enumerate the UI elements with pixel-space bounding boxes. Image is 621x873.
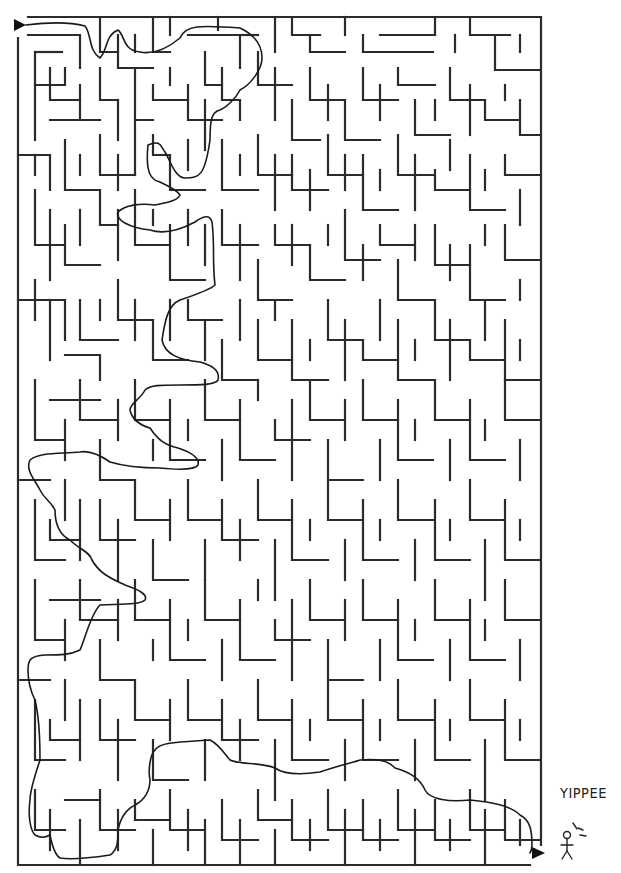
start-arrow-icon: [14, 19, 26, 31]
finish-arrow-icon: [532, 847, 545, 859]
stick-figure-icon: [555, 815, 605, 870]
maze-walls: [18, 17, 540, 865]
maze: [0, 0, 621, 873]
yippee-label: YIPPEE: [560, 785, 607, 802]
